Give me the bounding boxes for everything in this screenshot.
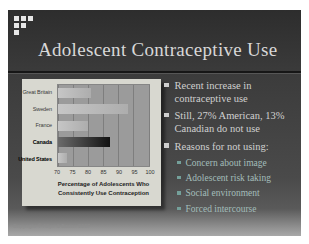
- bullet-item: Recent increase in contraceptive use: [164, 79, 300, 105]
- grid-line: [118, 85, 119, 166]
- grid-line: [133, 85, 134, 166]
- x-axis-label-line1: Percentage of Adolescents Who: [42, 180, 165, 189]
- category-label-france: France: [22, 117, 55, 134]
- bullet-item: Reasons for not using:: [164, 140, 300, 153]
- bar-canada: [58, 137, 110, 147]
- bullet-item: Still, 27% American, 13% Canadian do not…: [164, 109, 300, 135]
- sub-bullet-text: Forced intercourse: [186, 203, 257, 215]
- bullet-text: Reasons for not using:: [175, 140, 269, 153]
- logo-gap: [28, 23, 33, 28]
- x-tick-label: 75: [69, 169, 75, 175]
- title-divider: [8, 71, 301, 74]
- logo-square: [14, 30, 19, 35]
- x-axis-label-line2: Consistently Use Contraception: [42, 189, 165, 198]
- grid-line: [149, 85, 150, 166]
- bullet-list: Recent increase in contraceptive use Sti…: [164, 79, 300, 218]
- sub-bullet-text: Social environment: [186, 187, 260, 199]
- category-label-sweden: Sweden: [22, 101, 55, 118]
- presentation-slide: Adolescent Contraceptive Use Great Brita…: [8, 10, 301, 236]
- category-label-canada: Canada: [22, 134, 55, 151]
- logo-gap: [21, 30, 26, 35]
- category-label-united-states: United States: [22, 150, 55, 167]
- x-tick-label: 80: [85, 169, 91, 175]
- x-tick-label: 95: [131, 169, 137, 175]
- bullet-square-icon: [164, 143, 169, 148]
- sub-bullet-square-icon: [177, 207, 181, 211]
- sub-bullet-square-icon: [177, 161, 181, 165]
- logo-square: [14, 16, 19, 21]
- chart-x-ticks: 707580859095100: [57, 169, 150, 176]
- logo-row: [14, 30, 38, 35]
- grid-line: [103, 85, 104, 166]
- logo-row: [14, 16, 38, 21]
- bullet-square-icon: [164, 113, 169, 118]
- chart-card: Great BritainSwedenFranceCanadaUnited St…: [22, 79, 161, 206]
- chart-x-axis-label: Percentage of Adolescents Who Consistent…: [42, 180, 165, 197]
- logo-gap: [28, 30, 33, 35]
- bar-united-states: [58, 153, 67, 163]
- bar-sweden: [58, 104, 128, 114]
- publisher-pixel-logo-icon: [14, 16, 38, 40]
- sub-bullet-square-icon: [177, 176, 181, 180]
- bar-france: [58, 121, 88, 131]
- copyright-text: Copyright © Allyn & Bacon 2007: [13, 223, 90, 229]
- sub-bullet-square-icon: [177, 191, 181, 195]
- sub-bullet-item: Social environment: [177, 187, 300, 199]
- sub-bullet-item: Adolescent risk taking: [177, 172, 300, 184]
- sub-bullet-text: Concern about image: [186, 157, 267, 169]
- sub-bullet-item: Forced intercourse: [177, 203, 300, 215]
- x-tick-label: 90: [116, 169, 122, 175]
- slide-title: Adolescent Contraceptive Use: [38, 39, 298, 61]
- x-tick-label: 85: [100, 169, 106, 175]
- chart-plot-area: [57, 84, 150, 167]
- logo-square: [14, 23, 19, 28]
- chart-category-labels: Great BritainSwedenFranceCanadaUnited St…: [22, 84, 55, 167]
- category-label-great-britain: Great Britain: [22, 84, 55, 101]
- sub-bullet-item: Concern about image: [177, 157, 300, 169]
- sub-bullet-text: Adolescent risk taking: [186, 172, 271, 184]
- x-tick-label: 70: [54, 169, 60, 175]
- bullet-square-icon: [164, 83, 169, 88]
- x-tick-label: 100: [145, 169, 154, 175]
- bar-great-britain: [58, 88, 91, 98]
- logo-square: [21, 16, 26, 21]
- bullet-text: Still, 27% American, 13% Canadian do not…: [175, 109, 301, 135]
- logo-row: [14, 23, 38, 28]
- bullet-text: Recent increase in contraceptive use: [175, 79, 301, 105]
- logo-square: [21, 23, 26, 28]
- logo-square: [28, 16, 33, 21]
